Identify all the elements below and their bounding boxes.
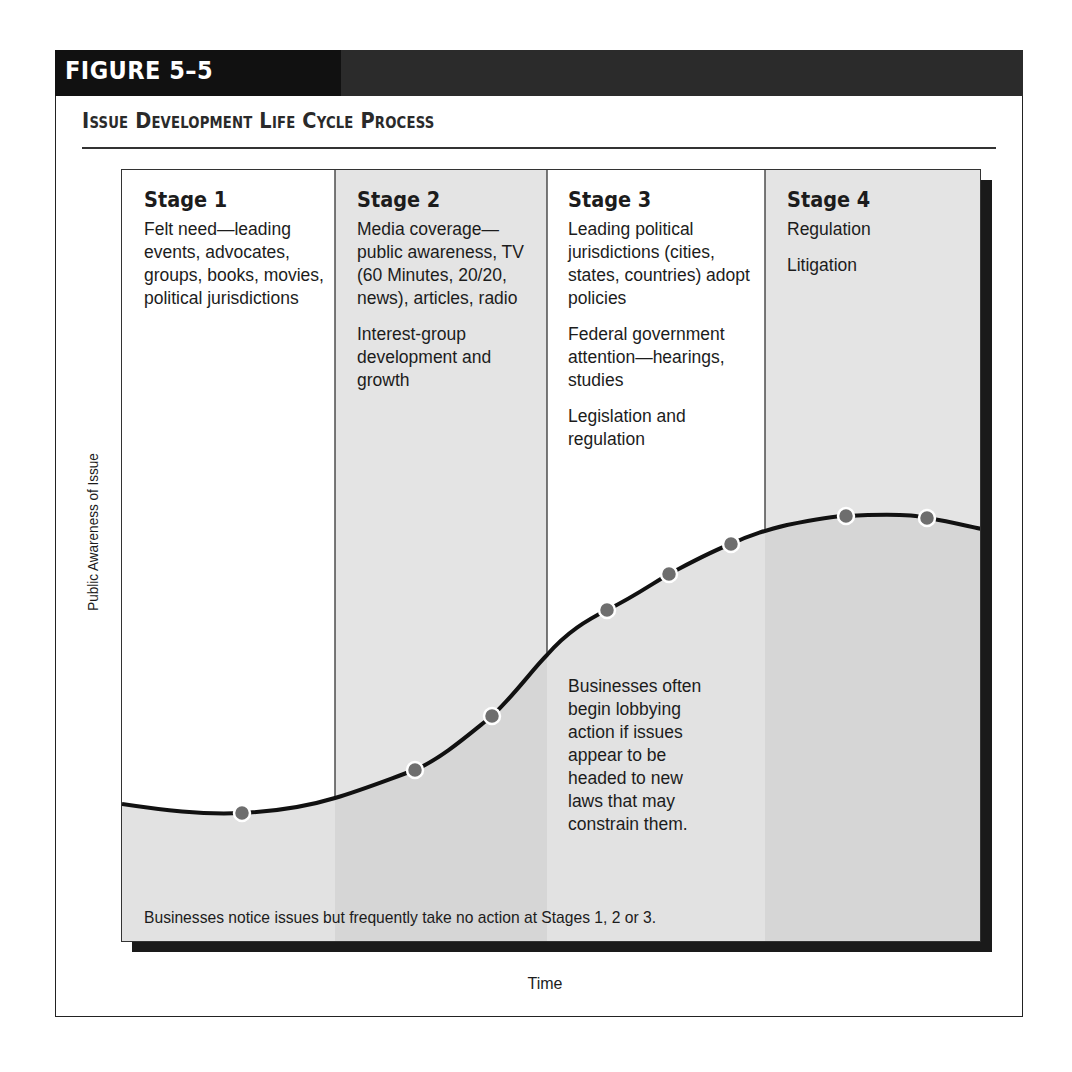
stage-4-description-litigation: Litigation <box>787 254 957 277</box>
stage-3: Stage 3 Leading political jurisdictions … <box>568 188 758 464</box>
marker-dot <box>484 708 500 724</box>
stage-3-description-federal: Federal government attention—hearings, s… <box>568 323 758 392</box>
stage-1-title: Stage 1 <box>144 188 319 212</box>
marker-dot <box>599 602 615 618</box>
figure-header-bar: FIGURE 5–5 <box>55 50 1023 96</box>
x-axis-label: Time <box>528 975 563 993</box>
bottom-note: Businesses notice issues but frequently … <box>144 908 656 928</box>
marker-dot <box>407 762 423 778</box>
marker-dot <box>838 508 854 524</box>
chart-panel: Stage 1 Felt need—leading events, advoca… <box>121 169 981 942</box>
stage-2-description-interest-groups: Interest-group development and growth <box>357 323 542 392</box>
marker-dot <box>723 536 739 552</box>
marker-dot <box>919 510 935 526</box>
title-divider <box>82 147 996 149</box>
stage-3-description-legislation: Legislation and regulation <box>568 405 758 451</box>
stage-4-title: Stage 4 <box>787 188 943 212</box>
marker-dot <box>234 805 250 821</box>
stage-2: Stage 2 Media coverage—public awareness,… <box>357 188 542 405</box>
lobbying-note: Businesses often begin lobbying action i… <box>568 675 718 836</box>
y-axis-label: Public Awareness of Issue <box>84 453 101 610</box>
marker-dot <box>661 566 677 582</box>
stage-1: Stage 1 Felt need—leading events, advoca… <box>144 188 334 323</box>
stage-4: Stage 4 Regulation Litigation <box>787 188 957 290</box>
stage-3-title: Stage 3 <box>568 188 743 212</box>
stage-4-description-regulation: Regulation <box>787 218 957 241</box>
stage-2-description-media: Media coverage—public awareness, TV (60 … <box>357 218 542 310</box>
stage-2-title: Stage 2 <box>357 188 527 212</box>
stage-3-description-jurisdictions: Leading political jurisdictions (cities,… <box>568 218 758 310</box>
figure-label: FIGURE 5–5 <box>65 56 213 85</box>
stage-1-description: Felt need—leading events, advocates, gro… <box>144 218 334 310</box>
figure-title: Issue Development Life Cycle Process <box>82 108 434 133</box>
